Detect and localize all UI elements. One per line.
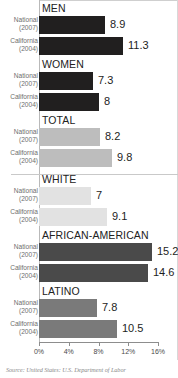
bar-category-label: National(2007): [2, 128, 38, 144]
bar: [39, 37, 123, 55]
x-axis-tick-label: 16%: [145, 348, 171, 355]
source-note: Source: United States: U.S. Department o…: [6, 366, 126, 373]
bar-row: National(2007)7.8: [0, 298, 178, 319]
bar-value-label: 7: [96, 189, 102, 201]
bar-category-label: California(2004): [2, 320, 38, 336]
x-axis-tick: [128, 342, 129, 346]
bar: [39, 320, 117, 338]
bar-category-label: California(2004): [2, 37, 38, 53]
bar: [39, 208, 107, 226]
bar-value-label: 15.2: [157, 245, 178, 257]
x-axis-tick-label: 0%: [26, 348, 52, 355]
x-axis-tick-label: 4%: [56, 348, 82, 355]
bar-category-label: National(2007): [2, 72, 38, 88]
bar-value-label: 10.5: [122, 322, 143, 334]
bar-chart: MENNational(2007)8.9California(2004)11.3…: [0, 0, 178, 378]
section-title: WOMEN: [42, 58, 84, 70]
bar-row: California(2004)8: [0, 92, 178, 113]
bar: [39, 93, 99, 111]
bar-category-label: National(2007): [2, 243, 38, 259]
bar-row: National(2007)15.2: [0, 242, 178, 263]
bar-category-label: California(2004): [2, 264, 38, 280]
bar-row: National(2007)8.9: [0, 15, 178, 36]
bar: [39, 187, 91, 205]
plot-top-border: [39, 0, 178, 1]
group-divider: [11, 174, 178, 175]
bar-value-label: 8: [104, 95, 110, 107]
bar-value-label: 7.8: [102, 301, 117, 313]
section-title: AFRICAN-AMERICAN: [42, 229, 149, 241]
section-title: MEN: [42, 2, 66, 14]
section-title: WHITE: [42, 173, 76, 185]
section-title: LATINO: [42, 285, 80, 297]
bar: [39, 264, 148, 282]
bar-value-label: 9.8: [117, 151, 132, 163]
x-axis-tick-label: 8%: [86, 348, 112, 355]
section-title: TOTAL: [42, 114, 75, 126]
x-axis-tick: [39, 342, 40, 346]
bar-row: National(2007)8.2: [0, 127, 178, 148]
bar-value-label: 8.2: [105, 130, 120, 142]
bar: [39, 16, 105, 34]
x-axis-tick: [99, 342, 100, 346]
bar-category-label: California(2004): [2, 208, 38, 224]
bar-row: National(2007)7.3: [0, 71, 178, 92]
bar-category-label: National(2007): [2, 16, 38, 32]
bar: [39, 149, 112, 167]
bar-row: California(2004)9.8: [0, 148, 178, 169]
bar-value-label: 11.3: [128, 39, 149, 51]
bar-row: California(2004)14.6: [0, 263, 178, 284]
bar-row: National(2007)7: [0, 186, 178, 207]
x-axis-tick-label: 12%: [115, 348, 141, 355]
bar: [39, 128, 100, 146]
bar-value-label: 14.6: [153, 266, 174, 278]
bar-category-label: California(2004): [2, 149, 38, 165]
x-axis-tick: [69, 342, 70, 346]
bar: [39, 243, 152, 261]
bar-row: California(2004)9.1: [0, 207, 178, 228]
bar-value-label: 9.1: [112, 210, 127, 222]
bar: [39, 72, 93, 90]
bar: [39, 299, 97, 317]
bar-value-label: 8.9: [110, 18, 125, 30]
bar-category-label: California(2004): [2, 93, 38, 109]
x-axis-tick: [158, 342, 159, 346]
bar-row: California(2004)11.3: [0, 36, 178, 57]
bar-category-label: National(2007): [2, 299, 38, 315]
bar-row: California(2004)10.5: [0, 319, 178, 340]
bar-value-label: 7.3: [98, 74, 113, 86]
bar-category-label: National(2007): [2, 187, 38, 203]
